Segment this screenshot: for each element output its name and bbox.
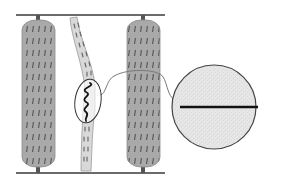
left-pillar	[22, 15, 55, 173]
highlight-region	[72, 77, 104, 124]
right-pillar	[127, 15, 160, 173]
diagram-svg	[0, 0, 281, 180]
magnified-inset	[172, 65, 258, 149]
diagram-canvas	[0, 0, 281, 180]
